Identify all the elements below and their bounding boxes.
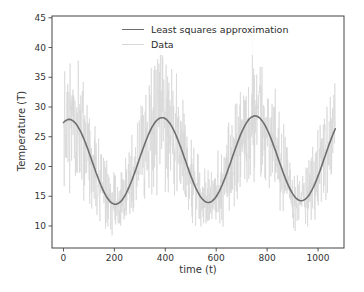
y-tick-label: 10 — [35, 221, 47, 231]
data-line-swatch — [122, 44, 144, 45]
data-series-line — [64, 41, 336, 236]
legend-label-data: Data — [151, 37, 174, 52]
legend-label-fit: Least squares approximation — [151, 22, 288, 37]
legend-item-data: Data — [122, 37, 288, 52]
matplotlib-figure: 020040060080010001015202530354045 Temper… — [0, 0, 364, 292]
x-axis-label: time (t) — [179, 264, 217, 275]
y-tick-label: 30 — [35, 102, 47, 112]
x-tick-label: 800 — [259, 253, 276, 263]
y-tick-label: 35 — [35, 72, 46, 82]
x-tick-label: 600 — [208, 253, 225, 263]
fit-line-swatch — [122, 29, 144, 30]
x-tick-label: 400 — [157, 253, 174, 263]
legend: Least squares approximation Data — [116, 19, 296, 55]
x-tick-label: 0 — [61, 253, 67, 263]
y-tick-label: 20 — [35, 162, 47, 172]
y-tick-label: 25 — [35, 132, 46, 142]
y-tick-label: 15 — [35, 191, 46, 201]
legend-item-fit: Least squares approximation — [122, 22, 288, 37]
y-axis-label: Temperature (T) — [16, 91, 27, 171]
y-tick-label: 45 — [35, 13, 46, 23]
x-tick-label: 1000 — [307, 253, 330, 263]
x-tick-label: 200 — [106, 253, 123, 263]
y-tick-label: 40 — [35, 43, 47, 53]
